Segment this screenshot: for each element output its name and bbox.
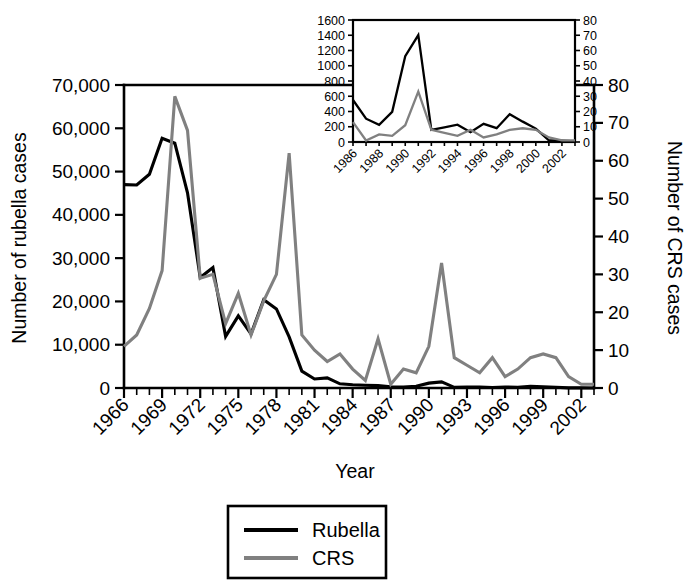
legend-item-crs-label: CRS — [312, 547, 354, 569]
inset-y-right-tick-label: 60 — [583, 44, 597, 58]
inset-y-left-tick-label: 1600 — [317, 14, 345, 28]
y-axis-right-tick-label: 40 — [608, 226, 629, 247]
inset-y-left-tick-label: 1000 — [317, 59, 345, 73]
y-axis-left-tick-label: 30,000 — [52, 248, 110, 269]
y-axis-right-tick-label: 10 — [608, 340, 629, 361]
y-axis-left-tick-label: 50,000 — [52, 161, 110, 182]
inset-y-right-tick-label: 40 — [583, 75, 597, 89]
inset-y-left-tick-label: 1200 — [317, 44, 345, 58]
rubella-crs-line-chart: 010,00020,00030,00040,00050,00060,00070,… — [0, 0, 691, 588]
y-axis-right-tick-label: 30 — [608, 264, 629, 285]
inset-y-left-tick-label: 400 — [324, 105, 345, 119]
legend-box — [228, 506, 386, 578]
y-axis-left-title: Number of rubella cases — [8, 132, 30, 344]
y-axis-left-tick-label: 40,000 — [52, 204, 110, 225]
inset-y-left-tick-label: 0 — [338, 136, 345, 150]
inset-y-right-tick-label: 50 — [583, 59, 597, 73]
y-axis-right-tick-label: 20 — [608, 302, 629, 323]
inset-frame — [353, 20, 575, 142]
y-axis-left-tick-label: 60,000 — [52, 118, 110, 139]
inset-y-right-tick-label: 80 — [583, 14, 597, 28]
figure-root: 010,00020,00030,00040,00050,00060,00070,… — [0, 0, 691, 588]
x-axis-title: Year — [335, 460, 375, 482]
y-axis-left-tick-label: 20,000 — [52, 291, 110, 312]
y-axis-left-tick-label: 70,000 — [52, 75, 110, 96]
inset-y-right-tick-label: 10 — [583, 120, 597, 134]
y-axis-right-tick-label: 70 — [608, 112, 629, 133]
inset-y-right-tick-label: 20 — [583, 105, 597, 119]
inset-y-left-tick-label: 600 — [324, 90, 345, 104]
inset-y-right-tick-label: 30 — [583, 90, 597, 104]
inset-y-left-tick-label: 200 — [324, 120, 345, 134]
y-axis-right-title: Number of CRS cases — [664, 141, 686, 335]
inset-y-left-tick-label: 1400 — [317, 29, 345, 43]
y-axis-right-tick-label: 80 — [608, 75, 629, 96]
legend-item-rubella-label: Rubella — [312, 519, 381, 541]
y-axis-right-tick-label: 0 — [608, 378, 619, 399]
y-axis-right-tick-label: 50 — [608, 188, 629, 209]
y-axis-right-tick-label: 60 — [608, 150, 629, 171]
inset-y-left-tick-label: 800 — [324, 75, 345, 89]
main-right-axis: 01020304050607080 — [594, 75, 629, 399]
inset-y-right-tick-label: 0 — [583, 136, 590, 150]
inset-y-right-tick-label: 70 — [583, 29, 597, 43]
y-axis-left-tick-label: 0 — [99, 378, 110, 399]
y-axis-left-tick-label: 10,000 — [52, 334, 110, 355]
legend: RubellaCRS — [228, 506, 386, 578]
